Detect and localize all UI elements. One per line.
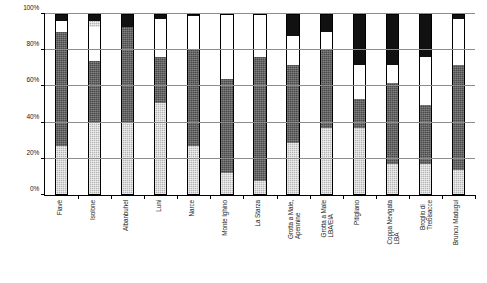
x-axis-category-label: Narce [188, 200, 195, 217]
x-axis-category-label: Coppa Nevigata LBA [386, 200, 401, 244]
y-axis-tick-mark [41, 194, 45, 195]
bar [121, 14, 134, 195]
bar-segment [154, 103, 167, 195]
bar-segment [88, 27, 101, 61]
gridline [45, 122, 475, 123]
bar-segment [154, 19, 167, 57]
bar-segment [121, 27, 134, 123]
bar [88, 14, 101, 195]
bar-segment [353, 65, 366, 99]
x-axis-category-label: Bruncu Madugui [452, 200, 459, 245]
x-axis-tick-mark [409, 195, 410, 199]
bar-segment [386, 65, 399, 83]
bar-segment [419, 14, 432, 57]
bar-segment [452, 170, 465, 195]
bar-segment [220, 173, 233, 195]
y-axis-tick-mark [41, 122, 45, 123]
y-axis-tick-label: 80% [27, 40, 39, 47]
bar [419, 14, 432, 195]
bar [154, 14, 167, 195]
y-axis-tick-mark [41, 158, 45, 159]
bar-segment [286, 65, 299, 143]
bar-segment [386, 14, 399, 65]
x-axis-category-label: Luni [155, 200, 162, 212]
x-axis-category-label: Grotta a Male LBA/EIA [320, 200, 335, 237]
bar-segment [253, 57, 266, 180]
bar-segment [55, 21, 68, 32]
bar-segment [286, 14, 299, 36]
bar-segment [353, 14, 366, 65]
bar-segment [353, 99, 366, 128]
x-axis-labels: FiavèIsoloneAlbanbuhelLuniNarceMonte Igh… [44, 200, 474, 283]
bar-segment [452, 14, 465, 19]
x-axis-category-label: La Starza [254, 200, 261, 226]
bar [55, 14, 68, 195]
x-axis-category-label: Monte Ighino [221, 200, 228, 236]
y-axis-tick-label: 0% [30, 185, 39, 192]
bar [386, 14, 399, 195]
gridline [45, 49, 475, 50]
bar-segment [386, 83, 399, 164]
x-axis-tick-mark [177, 195, 178, 199]
x-axis-tick-mark [243, 195, 244, 199]
x-axis-tick-mark [210, 195, 211, 199]
bar-segment [286, 36, 299, 65]
bar-segment [452, 19, 465, 64]
x-axis-tick-mark [376, 195, 377, 199]
bar-segment [320, 32, 333, 50]
bar [320, 14, 333, 195]
bar [353, 14, 366, 195]
x-axis-category-label: Isolone [89, 200, 96, 220]
bar-segment [452, 65, 465, 170]
x-axis-tick-mark [343, 195, 344, 199]
bar-segment [320, 50, 333, 128]
bar-segment [320, 14, 333, 32]
gridline [45, 85, 475, 86]
bar-segment [88, 14, 101, 21]
x-axis-tick-mark [277, 195, 278, 199]
bar-segment [286, 143, 299, 195]
bar-segment [187, 14, 200, 16]
x-axis-tick-mark [144, 195, 145, 199]
bar-segment [419, 57, 432, 104]
gridline [45, 13, 475, 14]
x-axis-tick-mark [475, 195, 476, 199]
bar-segment [88, 21, 101, 26]
y-axis-tick-mark [41, 13, 45, 14]
x-axis-tick-mark [78, 195, 79, 199]
bar-segment [187, 16, 200, 50]
bar-segment [88, 61, 101, 123]
bar-segment [220, 79, 233, 173]
bar-segment [253, 14, 266, 57]
bar-segment [419, 105, 432, 165]
stacked-bar-chart: 0%20%40%60%80%100% FiavèIsoloneAlbanbuhe… [0, 0, 487, 283]
y-axis-tick-label: 60% [27, 76, 39, 83]
bar-segment [187, 146, 200, 195]
x-axis-category-label: Fiavè [56, 200, 63, 215]
bar-segment [419, 164, 432, 195]
x-axis-tick-mark [111, 195, 112, 199]
bar-segment [320, 128, 333, 195]
y-axis-tick-mark [41, 85, 45, 86]
bar [220, 14, 233, 195]
x-axis-category-label: Albanbuhel [122, 200, 129, 231]
bar-segment [154, 57, 167, 102]
bar-segment [55, 146, 68, 195]
x-axis-tick-mark [310, 195, 311, 199]
y-axis-tick-label: 100% [23, 4, 39, 11]
bar-segment [154, 14, 167, 19]
x-axis-tick-mark [442, 195, 443, 199]
y-axis-tick-label: 20% [27, 148, 39, 155]
gridline [45, 158, 475, 159]
plot-area: 0%20%40%60%80%100% [44, 14, 475, 196]
y-axis-tick-label: 40% [27, 112, 39, 119]
bar-segment [121, 14, 134, 27]
bar [187, 14, 200, 195]
bar-segment [386, 164, 399, 195]
bar-segment [253, 181, 266, 195]
bar-segment [353, 128, 366, 195]
bars-layer [45, 14, 475, 195]
bar [253, 14, 266, 195]
bar-segment [187, 50, 200, 146]
x-axis-category-label: Pitigliano [353, 200, 360, 225]
